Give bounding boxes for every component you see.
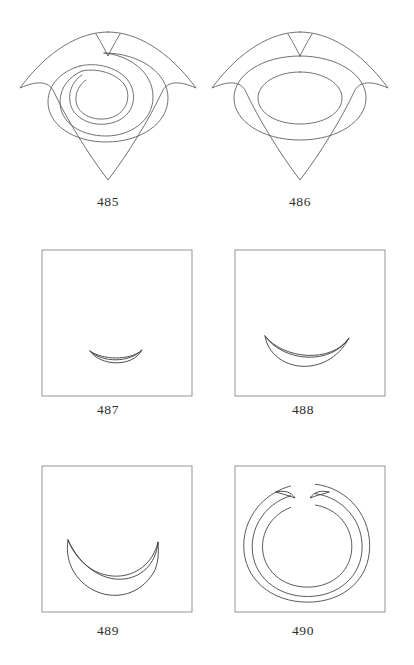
figure-487-label: 487 (8, 402, 208, 418)
figure-486-label: 486 (200, 194, 400, 210)
figure-485-label: 485 (8, 194, 208, 210)
figure-490-label: 490 (203, 623, 403, 639)
figure-487: 487 (8, 244, 208, 434)
figure-486: 486 (200, 14, 400, 224)
figure-485-artwork (8, 14, 208, 194)
figure-490: 490 (203, 460, 403, 655)
figure-490-artwork (203, 460, 403, 625)
figure-plate: 485 486 487 (0, 0, 414, 665)
figure-489-label: 489 (8, 623, 208, 639)
figure-489: 489 (8, 460, 208, 655)
figure-488-label: 488 (203, 402, 403, 418)
figure-486-artwork (200, 14, 400, 194)
figure-487-artwork (8, 244, 208, 404)
figure-frame (42, 250, 192, 396)
figure-frame (235, 250, 385, 396)
figure-488: 488 (203, 244, 403, 434)
figure-488-artwork (203, 244, 403, 404)
figure-frame (42, 466, 192, 612)
figure-489-artwork (8, 460, 208, 625)
figure-485: 485 (8, 14, 208, 224)
